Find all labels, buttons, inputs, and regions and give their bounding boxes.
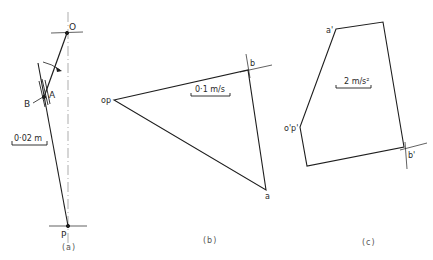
panel-b <box>114 54 272 190</box>
scale-label-b: 0·1 m/s <box>195 85 225 94</box>
label-point-b: B <box>24 99 30 109</box>
label-point-op-prime: o'p' <box>284 124 298 133</box>
label-point-a-prime: a' <box>326 26 333 35</box>
link-bp <box>38 63 68 226</box>
rotation-arrowhead-icon <box>56 67 62 72</box>
panel-c <box>300 22 427 169</box>
label-point-a-velocity: a <box>265 192 270 201</box>
panel-a <box>12 12 87 250</box>
pivot-p <box>66 224 69 227</box>
velocity-triangle <box>114 70 266 190</box>
scale-label-c: 2 m/s² <box>344 77 370 86</box>
crank-oa <box>44 33 67 97</box>
label-point-b-prime: b' <box>408 151 415 160</box>
label-point-b-velocity: b <box>250 59 255 68</box>
b-pointer <box>33 97 43 103</box>
caption-a: (a) <box>62 243 76 252</box>
label-point-o: O <box>69 22 76 32</box>
caption-c: (c) <box>362 238 376 247</box>
label-point-p: P <box>61 230 67 240</box>
caption-b: (b) <box>203 236 217 245</box>
acceleration-polygon <box>300 22 404 166</box>
pivot-a <box>42 95 45 98</box>
label-point-a: A <box>49 90 56 100</box>
scale-label-a: 0·02 m <box>14 134 42 143</box>
b-extension-horizontal <box>240 65 272 72</box>
b-prime-extension-vertical <box>405 142 407 169</box>
figure-canvas: O A B P 0·02 m (a) op b a 0·1 m/s (b) a'… <box>0 0 433 260</box>
label-point-op: op <box>101 96 111 105</box>
